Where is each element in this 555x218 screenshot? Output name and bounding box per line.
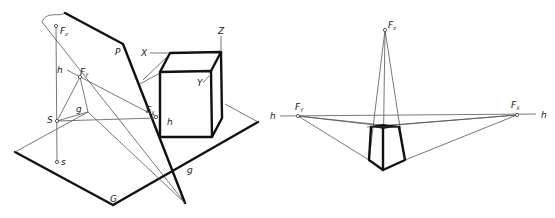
point-Fx — [154, 115, 157, 118]
ground-plane-back-right — [225, 104, 258, 122]
label-X: X — [140, 48, 148, 58]
label-Fy: FY — [80, 67, 89, 78]
ray-Fy-top-mid — [298, 116, 383, 126]
point-Fz — [383, 28, 386, 31]
label-h-left: h — [270, 111, 276, 121]
sightline-S-Fy — [57, 77, 80, 121]
ray-Fx-top-mid — [383, 115, 517, 126]
label-Z: Z — [217, 26, 225, 36]
label-Fx: FX — [511, 100, 520, 111]
ground-plane-right-edge — [113, 122, 258, 205]
right-panel: Fz FY FX h h — [270, 20, 547, 170]
point-Fy — [296, 114, 299, 117]
label-P: P — [115, 47, 121, 57]
label-Fx: FX — [146, 105, 155, 116]
label-Fy: FY — [295, 102, 304, 113]
station-vertical-line — [56, 26, 57, 162]
label-g-upper: g — [76, 104, 82, 114]
label-h-right: h — [167, 117, 173, 127]
label-h: h — [57, 65, 63, 75]
construction-S-g — [57, 112, 88, 121]
point-Fx — [515, 113, 518, 116]
box-top-right-edge — [211, 52, 221, 71]
point-Fz — [54, 24, 57, 27]
label-Fz: Fz — [388, 20, 396, 31]
label-g: g — [187, 165, 193, 175]
label-h-right: h — [541, 110, 547, 120]
construction-box-to-plane — [140, 73, 160, 84]
point-s — [55, 160, 58, 163]
label-Y: Y — [197, 78, 204, 88]
point-S — [55, 119, 58, 122]
box-outline — [369, 127, 405, 170]
label-s: s — [61, 157, 66, 167]
horizon-line — [280, 114, 536, 116]
axis-Y-tick — [203, 76, 209, 83]
label-G: G — [110, 194, 117, 204]
sightline-S-Fx — [57, 118, 156, 121]
left-panel: Fz P h FY g S s FX h g G X Y Z — [15, 13, 258, 205]
perspective-diagram: Fz P h FY g S s FX h g G X Y Z — [0, 0, 555, 218]
ray-Fx-bottom — [405, 115, 517, 160]
label-S: S — [47, 115, 53, 125]
label-Fz: Fz — [60, 26, 68, 37]
picture-plane-top-edge — [42, 13, 65, 22]
